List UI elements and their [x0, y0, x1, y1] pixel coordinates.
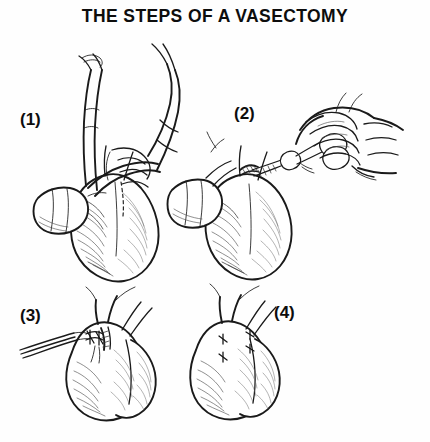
suture-marks-right [246, 330, 254, 353]
step-label-4: (4) [274, 303, 295, 323]
panel-1-artwork [34, 44, 180, 281]
step-label-2: (2) [234, 104, 255, 124]
vasectomy-illustration-artwork [0, 0, 430, 442]
step-label-3: (3) [20, 306, 41, 326]
illustration-page: THE STEPS OF A VASECTOMY [0, 0, 430, 442]
suture-marks-left [219, 334, 227, 362]
vas-deferens-with-ligatures [86, 330, 103, 345]
incision-marker-line [121, 182, 123, 216]
panel-4-artwork [190, 284, 280, 419]
step-label-1: (1) [20, 110, 41, 130]
forceps-instrument [252, 134, 349, 176]
forceps-tips [20, 332, 90, 358]
page-title: THE STEPS OF A VASECTOMY [0, 6, 430, 27]
panel-2-artwork [168, 93, 404, 279]
